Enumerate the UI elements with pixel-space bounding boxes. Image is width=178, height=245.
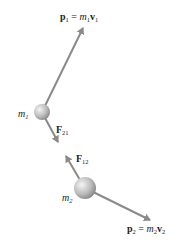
p2-equals: = bbox=[136, 223, 147, 234]
f21-subscript: 21 bbox=[62, 129, 69, 136]
p2-velocity-subscript: 2 bbox=[162, 228, 165, 235]
m2-subscript: 2 bbox=[69, 197, 72, 204]
f12-subscript: 12 bbox=[82, 158, 89, 165]
momentum-p1-arrow bbox=[42, 28, 83, 112]
p1-equals: = bbox=[69, 11, 80, 22]
p1-velocity-subscript: 1 bbox=[95, 16, 98, 23]
p1-mass: m bbox=[79, 11, 86, 22]
p2-label: p2 = m2v2 bbox=[127, 224, 165, 236]
m1-subscript: 1 bbox=[25, 113, 28, 120]
particle-m2-ball bbox=[74, 177, 96, 199]
p1-label: p1 = m1v1 bbox=[60, 12, 98, 24]
particle-m1-ball bbox=[34, 104, 50, 120]
f12-label: F12 bbox=[76, 154, 89, 166]
m2-label: m2 bbox=[62, 193, 72, 205]
diagram-canvas bbox=[0, 0, 178, 245]
f21-label: F21 bbox=[56, 125, 69, 137]
m1-label: m1 bbox=[18, 109, 28, 121]
p2-mass: m bbox=[146, 223, 153, 234]
